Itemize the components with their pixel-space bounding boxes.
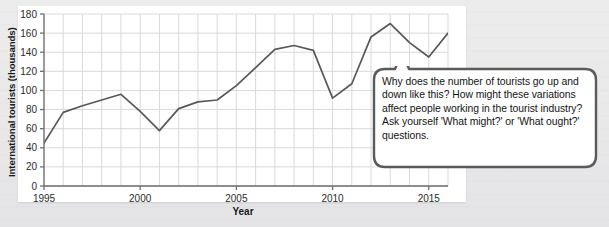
x-axis-tick-labels: 19952000200520102015 (33, 193, 440, 204)
svg-text:2010: 2010 (321, 193, 344, 204)
svg-text:2000: 2000 (129, 193, 152, 204)
svg-text:100: 100 (20, 85, 37, 96)
svg-text:20: 20 (26, 161, 38, 172)
svg-text:160: 160 (20, 28, 37, 39)
svg-text:2005: 2005 (225, 193, 248, 204)
svg-text:80: 80 (26, 104, 38, 115)
annotation-callout: Why does the number of tourists go up an… (371, 66, 599, 172)
svg-text:40: 40 (26, 142, 38, 153)
y-axis-tick-labels: 020406080100120140160180 (20, 9, 37, 192)
svg-text:60: 60 (26, 123, 38, 134)
svg-text:140: 140 (20, 47, 37, 58)
svg-text:180: 180 (20, 9, 37, 20)
svg-text:2015: 2015 (418, 193, 441, 204)
svg-text:120: 120 (20, 66, 37, 77)
chart-screenshot: International tourists (thousands) Year … (0, 0, 609, 227)
svg-text:1995: 1995 (33, 193, 56, 204)
svg-text:0: 0 (31, 181, 37, 192)
callout-text: Why does the number of tourists go up an… (382, 75, 590, 142)
